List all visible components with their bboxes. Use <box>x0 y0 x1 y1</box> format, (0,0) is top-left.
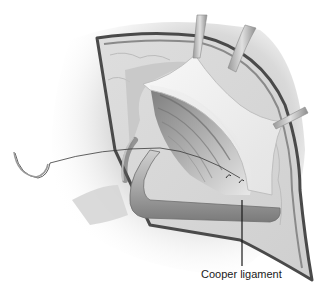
surgical-illustration: Cooper ligament <box>0 0 327 296</box>
illustration-svg <box>0 0 327 296</box>
cooper-ligament-label: Cooper ligament <box>201 268 282 280</box>
